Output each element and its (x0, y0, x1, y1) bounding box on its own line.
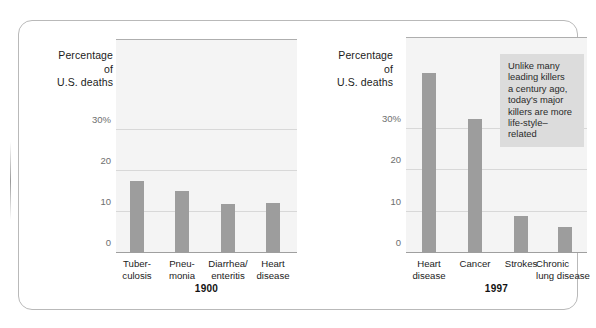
y-tick-label-10: 10 (390, 195, 401, 206)
bar-chronic-lung-disease (558, 227, 572, 253)
gridline-20 (116, 170, 297, 171)
x-label-diarrhea-enteritis: Diarrhea/ enteritis (200, 258, 256, 281)
y-tick-label-30: 30% (92, 114, 111, 125)
figure-frame: Percentage of U.S. deaths 30% 20 10 0 (18, 20, 578, 310)
y-tick-label-0: 0 (396, 237, 401, 248)
bar-cancer (468, 119, 482, 253)
bar-pneumonia (175, 191, 189, 253)
plot-area-1997: 30% 20 10 0 Heart disease Cancer Strokes… (406, 37, 587, 253)
plot-inner-1997: 30% 20 10 0 Heart disease Cancer Strokes… (406, 38, 587, 253)
y-tick-label-20: 20 (100, 155, 111, 166)
chart-panel-1997: Percentage of U.S. deaths 30% 20 10 0 He… (299, 21, 579, 311)
x-label-heart-disease: Heart disease (249, 258, 297, 281)
x-label-chronic-lung-disease: Chronic lung disease (536, 258, 596, 281)
bar-tuberculosis (130, 181, 144, 253)
chart-year-1900: 1900 (116, 283, 297, 294)
x-label-heart-disease: Heart disease (405, 258, 453, 281)
bar-diarrhea-enteritis (221, 204, 235, 253)
x-label-pneumonia: Pneu- monia (158, 258, 206, 281)
annotation-callout: Unlike many leading killers a century ag… (500, 54, 584, 147)
x-label-cancer: Cancer (451, 258, 499, 270)
bar-strokes (514, 216, 528, 253)
page-edge-line (10, 142, 11, 220)
y-tick-label-30: 30% (382, 113, 401, 124)
y-axis-title-1997: Percentage of U.S. deaths (301, 49, 393, 90)
y-tick-label-10: 10 (100, 196, 111, 207)
chart-panel-1900: Percentage of U.S. deaths 30% 20 10 0 (19, 21, 299, 311)
gridline-30 (116, 129, 297, 130)
y-tick-label-20: 20 (390, 154, 401, 165)
plot-area-1900: 30% 20 10 0 Tuber- culosis Pneu- monia D… (116, 39, 297, 253)
y-tick-label-0: 0 (106, 237, 111, 248)
bar-heart-disease (422, 73, 436, 253)
bar-heart-disease (266, 203, 280, 253)
y-axis-title-1900: Percentage of U.S. deaths (21, 49, 113, 90)
x-label-tuberculosis: Tuber- culosis (112, 258, 162, 281)
chart-year-1997: 1997 (406, 283, 587, 294)
plot-inner-1900: 30% 20 10 0 Tuber- culosis Pneu- monia D… (116, 40, 297, 253)
